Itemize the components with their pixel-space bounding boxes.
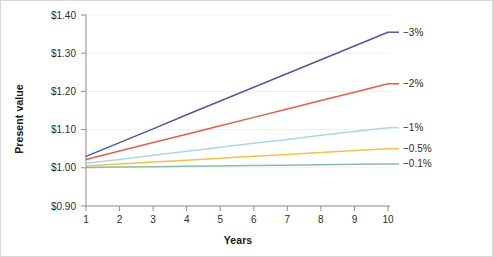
x-tick-label-4: 5 (217, 214, 223, 225)
x-tick-label-9: 10 (382, 214, 394, 225)
data-lines-group (86, 32, 388, 167)
line-chart: $0.90$1.00$1.10$1.20$1.30$1.40 123456789… (1, 1, 492, 256)
data-line-−2% (86, 84, 388, 160)
x-tick-label-0: 1 (83, 214, 89, 225)
series-label-−0.5%: −0.5% (403, 143, 432, 154)
y-tick-label-0: $0.90 (51, 201, 76, 212)
series-label-−1%: −1% (403, 122, 423, 133)
chart-figure: $0.90$1.00$1.10$1.20$1.30$1.40 123456789… (1, 1, 492, 256)
x-tick-label-2: 3 (150, 214, 156, 225)
y-tick-label-4: $1.30 (51, 48, 76, 59)
y-tick-labels-group: $0.90$1.00$1.10$1.20$1.30$1.40 (51, 10, 76, 212)
y-tick-label-3: $1.20 (51, 86, 76, 97)
axes-group (81, 15, 390, 211)
x-tick-label-8: 9 (352, 214, 358, 225)
gridlines-group (86, 15, 390, 206)
series-label-−2%: −2% (403, 78, 423, 89)
x-axis-title: Years (224, 234, 253, 246)
y-axis-title: Present value (13, 84, 25, 154)
x-tick-label-3: 4 (184, 214, 190, 225)
x-tick-label-6: 7 (285, 214, 291, 225)
y-tick-label-2: $1.10 (51, 124, 76, 135)
x-tick-labels-group: 12345678910 (83, 214, 394, 225)
y-tick-label-5: $1.40 (51, 10, 76, 21)
data-line-−3% (86, 32, 388, 156)
y-tick-label-1: $1.00 (51, 162, 76, 173)
x-tick-label-5: 6 (251, 214, 257, 225)
series-label-−3%: −3% (403, 27, 423, 38)
x-tick-label-7: 8 (318, 214, 324, 225)
data-line-−0.1% (86, 164, 388, 167)
series-label-−0.1%: −0.1% (403, 158, 432, 169)
series-labels-group: −3%−2%−1%−0.5%−0.1% (388, 27, 432, 170)
x-tick-label-1: 2 (117, 214, 123, 225)
